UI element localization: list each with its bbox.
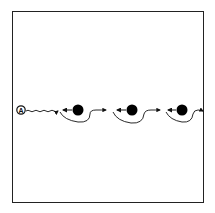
diagram-canvas: A bbox=[0, 0, 215, 213]
segment-1 bbox=[60, 105, 106, 123]
node-3 bbox=[177, 105, 188, 116]
segment-3 bbox=[166, 105, 203, 123]
node-2 bbox=[127, 105, 138, 116]
start-node: A bbox=[17, 106, 25, 114]
start-label: A bbox=[18, 107, 23, 114]
node-1 bbox=[73, 105, 84, 116]
wavy-connector bbox=[26, 110, 58, 112]
segment-2 bbox=[113, 105, 160, 124]
